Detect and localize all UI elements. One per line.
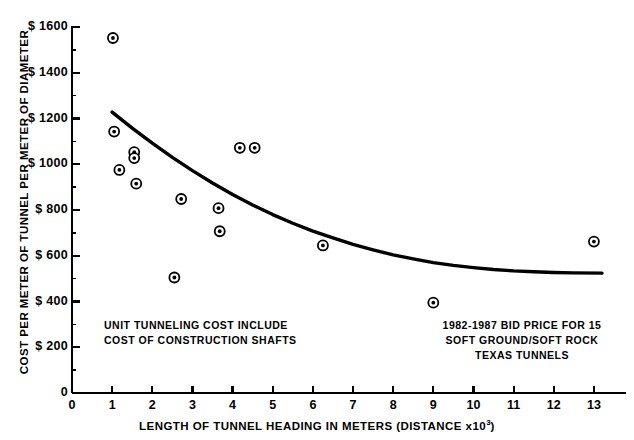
data-point-center-dot (253, 146, 257, 150)
data-point (589, 237, 599, 247)
data-point-center-dot (592, 240, 596, 244)
data-point (214, 203, 224, 213)
data-point-center-dot (117, 168, 121, 172)
data-point (176, 194, 186, 204)
fit-curve (112, 112, 602, 273)
data-point (428, 298, 438, 308)
data-point-center-dot (132, 156, 136, 160)
data-point-center-dot (431, 301, 435, 305)
data-point (129, 153, 139, 163)
data-point-center-dot (179, 197, 183, 201)
data-point (169, 272, 179, 282)
axes-group (72, 26, 626, 393)
plot-area (0, 0, 634, 440)
data-point-center-dot (112, 130, 116, 134)
data-point (235, 143, 245, 153)
data-point-center-dot (111, 36, 115, 40)
data-point-center-dot (218, 229, 222, 233)
data-point-center-dot (172, 276, 176, 280)
data-point (109, 127, 119, 137)
data-point-center-dot (217, 206, 221, 210)
fit-curve-path (112, 112, 602, 273)
data-point (250, 143, 260, 153)
data-point-center-dot (321, 244, 325, 248)
data-point (108, 33, 118, 43)
data-point-center-dot (134, 182, 138, 186)
data-point (215, 226, 225, 236)
chart-figure: COST PER METER OF TUNNEL PER METER OF DI… (0, 0, 634, 440)
data-point-center-dot (238, 146, 242, 150)
data-point (318, 240, 328, 250)
data-point (114, 165, 124, 175)
data-point-group (108, 33, 599, 308)
data-point (131, 179, 141, 189)
